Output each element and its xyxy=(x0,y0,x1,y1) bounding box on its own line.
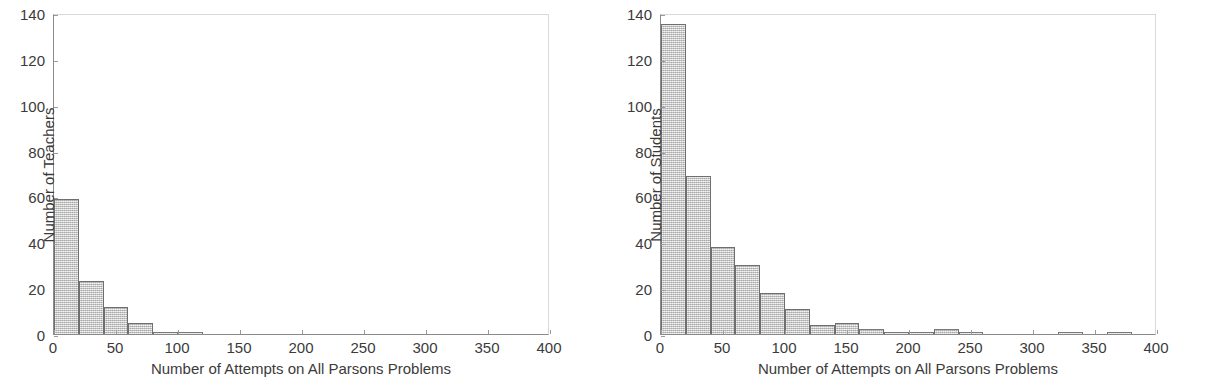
histogram-bar xyxy=(934,329,959,334)
x-axis-tick-label: 350 xyxy=(1081,339,1106,356)
x-axis-title-students: Number of Attempts on All Parsons Proble… xyxy=(660,360,1156,377)
x-axis-tick-label: 250 xyxy=(350,339,375,356)
y-axis-tick-label: 60 xyxy=(607,189,652,206)
histogram-bar xyxy=(810,325,835,334)
panel-students: Number of Students Number of Attempts on… xyxy=(607,0,1213,380)
x-axis-tick xyxy=(661,330,662,334)
histogram-bar xyxy=(178,332,203,334)
histogram-bar xyxy=(54,199,79,334)
histogram-bar xyxy=(760,293,785,334)
y-axis-tick-label: 60 xyxy=(0,189,45,206)
x-axis-tick xyxy=(909,330,910,334)
x-axis-tick xyxy=(847,330,848,334)
x-axis-title-teachers: Number of Attempts on All Parsons Proble… xyxy=(53,360,549,377)
x-axis-tick xyxy=(116,330,117,334)
x-axis-tick-label: 100 xyxy=(164,339,189,356)
x-axis-tick xyxy=(426,330,427,334)
y-axis-tick-label: 80 xyxy=(607,143,652,160)
x-axis-tick-label: 300 xyxy=(1019,339,1044,356)
y-axis-title-students: Number of Students xyxy=(647,45,664,305)
bars-layer-teachers xyxy=(54,15,548,334)
histogram-bar xyxy=(909,332,934,334)
plot-area-teachers xyxy=(53,14,549,335)
y-axis-tick xyxy=(54,336,58,337)
x-axis-tick-label: 0 xyxy=(656,339,664,356)
y-axis-tick-label: 140 xyxy=(0,6,45,23)
y-axis-tick-label: 0 xyxy=(607,327,652,344)
y-axis-tick-label: 40 xyxy=(0,235,45,252)
x-axis-tick-label: 50 xyxy=(107,339,124,356)
x-axis-tick-label: 300 xyxy=(412,339,437,356)
figure-two-histograms: Number of Teachers Number of Attempts on… xyxy=(0,0,1213,380)
histogram-bar xyxy=(735,265,760,334)
histogram-bar xyxy=(785,309,810,334)
y-axis-tick-label: 80 xyxy=(0,143,45,160)
x-axis-tick xyxy=(723,330,724,334)
x-axis-tick xyxy=(302,330,303,334)
y-axis-tick-label: 100 xyxy=(607,97,652,114)
histogram-bar xyxy=(153,332,178,334)
panel-teachers: Number of Teachers Number of Attempts on… xyxy=(0,0,606,380)
x-axis-tick-label: 150 xyxy=(833,339,858,356)
x-axis-tick-label: 200 xyxy=(895,339,920,356)
x-axis-tick xyxy=(240,330,241,334)
x-axis-tick xyxy=(971,330,972,334)
x-axis-tick xyxy=(1095,330,1096,334)
y-axis-tick-label: 0 xyxy=(0,327,45,344)
histogram-bar xyxy=(79,281,104,334)
bars-layer-students xyxy=(661,15,1155,334)
y-axis-tick-label: 120 xyxy=(607,51,652,68)
x-axis-tick xyxy=(178,330,179,334)
x-axis-tick-label: 400 xyxy=(1143,339,1168,356)
histogram-bar xyxy=(1107,332,1132,334)
y-axis-tick xyxy=(661,336,665,337)
x-axis-tick xyxy=(1033,330,1034,334)
x-axis-tick-label: 250 xyxy=(957,339,982,356)
x-axis-tick xyxy=(1157,330,1158,334)
y-axis-tick xyxy=(661,15,665,16)
x-axis-tick-label: 150 xyxy=(226,339,251,356)
y-axis-tick-label: 120 xyxy=(0,51,45,68)
y-axis-title-teachers: Number of Teachers xyxy=(40,45,57,305)
y-axis-tick-label: 100 xyxy=(0,97,45,114)
x-axis-tick-label: 400 xyxy=(536,339,561,356)
x-axis-tick xyxy=(488,330,489,334)
y-axis-tick-label: 40 xyxy=(607,235,652,252)
histogram-bar xyxy=(711,247,736,334)
x-axis-tick-label: 100 xyxy=(771,339,796,356)
x-axis-tick xyxy=(550,330,551,334)
histogram-bar xyxy=(1058,332,1083,334)
y-axis-tick xyxy=(54,15,58,16)
x-axis-tick xyxy=(364,330,365,334)
y-axis-tick-label: 140 xyxy=(607,6,652,23)
x-axis-tick-label: 0 xyxy=(49,339,57,356)
x-axis-tick-label: 50 xyxy=(714,339,731,356)
y-axis-tick-label: 20 xyxy=(0,281,45,298)
y-axis-tick-label: 20 xyxy=(607,281,652,298)
x-axis-tick-label: 350 xyxy=(474,339,499,356)
x-axis-tick xyxy=(785,330,786,334)
plot-area-students xyxy=(660,14,1156,335)
histogram-bar xyxy=(859,329,884,334)
x-axis-tick-label: 200 xyxy=(288,339,313,356)
x-axis-tick xyxy=(54,330,55,334)
histogram-bar xyxy=(128,323,153,334)
histogram-bar xyxy=(686,176,711,334)
histogram-bar xyxy=(661,24,686,334)
histogram-bar xyxy=(884,332,909,334)
